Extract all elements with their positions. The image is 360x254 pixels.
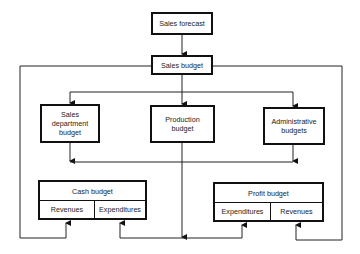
profit-budget-title: Profit budget — [215, 184, 322, 203]
sales-forecast-label: Sales forecast — [159, 19, 205, 28]
administrative-budgets-label: Administrative budgets — [267, 117, 321, 135]
administrative-budgets-node: Administrative budgets — [263, 107, 325, 145]
cash-budget-revenues: Revenues — [40, 200, 94, 218]
sales-forecast-node: Sales forecast — [151, 12, 213, 35]
sales-budget-node: Sales budget — [151, 55, 213, 75]
production-budget-label: Production budget — [164, 115, 201, 133]
cash-budget-node: Cash budget Revenues Expenditures — [38, 180, 147, 220]
sales-budget-label: Sales budget — [161, 61, 203, 70]
cash-budget-expenditures: Expenditures — [95, 200, 145, 218]
cash-budget-title: Cash budget — [40, 182, 145, 201]
sales-department-budget-node: Sales department budget — [40, 104, 100, 143]
profit-budget-node: Profit budget Expenditures Revenues — [213, 182, 324, 222]
profit-budget-expenditures: Expenditures — [215, 202, 270, 220]
profit-budget-revenues: Revenues — [271, 202, 322, 220]
production-budget-node: Production budget — [150, 105, 215, 143]
sales-department-budget-label: Sales department budget — [48, 110, 92, 137]
